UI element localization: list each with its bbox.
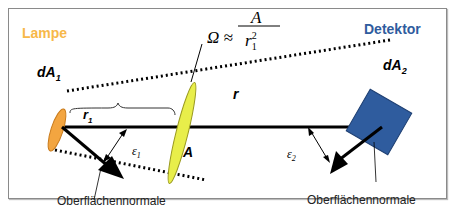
- A-label: A: [183, 144, 193, 160]
- detector-label: Detektor: [364, 21, 421, 37]
- detector-surface-dA2: [346, 89, 412, 155]
- r1-subscript: 1: [88, 116, 92, 125]
- epsilon1-label: ε1: [132, 144, 141, 160]
- detector-normal-label: Oberflächennormale: [307, 193, 416, 207]
- r1-label: r1: [83, 107, 93, 125]
- dA2-subscript: 2: [402, 66, 407, 76]
- formula-den-sup: 2: [252, 30, 257, 41]
- dA1-subscript: 1: [56, 73, 61, 83]
- dA2-label: dA2: [383, 57, 407, 76]
- epsilon2-subscript: 2: [292, 154, 296, 163]
- dA1-label: dA1: [37, 64, 61, 83]
- eps1-angle-marker: [106, 132, 124, 159]
- formula-lhs: Ω ≈: [207, 28, 233, 48]
- eps2-arrowhead-bottom: [323, 155, 330, 163]
- eps2-angle-marker: [310, 130, 328, 160]
- formula-pointer-line: [191, 44, 202, 82]
- lamp-normal-arrow: [62, 127, 108, 166]
- r-label: r: [233, 86, 238, 102]
- eps1-arrowhead-top: [119, 129, 127, 137]
- aperture-lens-A: [164, 81, 201, 185]
- lamp-normal-label: Oberflächennormale: [57, 194, 166, 208]
- dA1-text: dA: [37, 64, 56, 80]
- lamp-label: Lampe: [22, 25, 67, 41]
- formula-den-sub: 1: [252, 41, 257, 52]
- dA2-text: dA: [383, 57, 402, 73]
- epsilon1-subscript: 1: [137, 151, 141, 160]
- formula-denominator: r12: [245, 30, 257, 52]
- formula-den-r: r: [245, 31, 252, 50]
- formula-numerator: A: [251, 8, 261, 28]
- epsilon2-label: ε2: [287, 147, 296, 163]
